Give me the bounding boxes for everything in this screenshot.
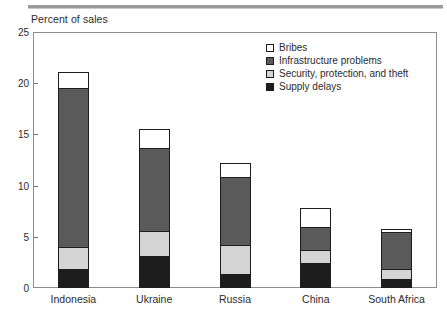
bar-segment: [300, 208, 331, 227]
x-axis-label: Ukraine: [136, 293, 172, 305]
bar-segment: [58, 247, 89, 270]
legend-item[interactable]: Security, protection, and theft: [266, 68, 408, 80]
x-axis-label: South Africa: [368, 293, 425, 305]
bar-segment: [300, 263, 331, 288]
bar-segment: [139, 129, 170, 148]
legend-item[interactable]: Supply delays: [266, 81, 408, 93]
bar-stack: [58, 73, 89, 288]
legend-item[interactable]: Infrastructure problems: [266, 55, 408, 67]
bar-stack: [300, 209, 331, 288]
legend-item[interactable]: Bribes: [266, 42, 408, 54]
bar-segment: [58, 88, 89, 248]
bar-segment: [220, 163, 251, 178]
legend-label: Security, protection, and theft: [279, 68, 408, 79]
bar-stack: [220, 164, 251, 288]
bar-segment: [139, 256, 170, 288]
legend-label: Infrastructure problems: [279, 55, 382, 66]
bar-segment: [58, 269, 89, 288]
x-axis-label: Russia: [219, 293, 251, 305]
bar-segment: [381, 232, 412, 270]
bar-segment: [220, 245, 251, 275]
chart-legend: BribesInfrastructure problemsSecurity, p…: [266, 42, 408, 94]
bar-segment: [381, 279, 412, 288]
legend-swatch-icon: [266, 70, 274, 78]
legend-swatch-icon: [266, 57, 274, 65]
legend-label: Supply delays: [279, 81, 341, 92]
legend-swatch-icon: [266, 83, 274, 91]
legend-swatch-icon: [266, 44, 274, 52]
bar-segment: [300, 250, 331, 264]
bar-segment: [139, 148, 170, 232]
x-axis-label: Indonesia: [51, 293, 97, 305]
bar-segment: [58, 72, 89, 89]
chart-figure: Percent of sales 0510152025 IndonesiaUkr…: [0, 0, 447, 318]
x-axis-label: China: [302, 293, 329, 305]
bar-segment: [139, 231, 170, 258]
bar-stack: [139, 130, 170, 288]
bar-stack: [381, 230, 412, 288]
bar-segment: [220, 274, 251, 288]
bar-segment: [220, 177, 251, 246]
legend-label: Bribes: [279, 42, 307, 53]
bar-segment: [300, 227, 331, 252]
